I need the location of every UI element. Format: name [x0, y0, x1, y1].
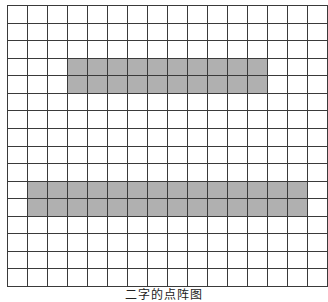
grid-cell [188, 24, 208, 42]
grid-cell [48, 234, 68, 252]
grid-cell-filled [108, 59, 128, 77]
grid-cell [128, 252, 148, 270]
grid-cell [8, 76, 28, 94]
grid-cell [208, 147, 228, 165]
grid-cell-filled [208, 182, 228, 200]
grid-cell [228, 234, 248, 252]
grid-cell [288, 234, 308, 252]
grid-cell [248, 6, 268, 24]
grid-cell [68, 41, 88, 59]
grid-cell [308, 24, 328, 42]
grid-cell [88, 234, 108, 252]
grid-cell [28, 41, 48, 59]
grid-cell [248, 94, 268, 112]
grid-cell-filled [28, 182, 48, 200]
grid-cell [188, 94, 208, 112]
grid-cell [108, 129, 128, 147]
grid-cell-filled [208, 59, 228, 77]
grid-cell [108, 217, 128, 235]
grid-cell [48, 76, 68, 94]
grid-cell [268, 147, 288, 165]
grid-cell-filled [148, 182, 168, 200]
grid-cell [88, 24, 108, 42]
grid-cell [128, 234, 148, 252]
grid-cell [308, 94, 328, 112]
grid-cell [8, 164, 28, 182]
grid-cell [108, 252, 128, 270]
grid-cell-filled [228, 76, 248, 94]
grid-cell [268, 6, 288, 24]
grid-cell [148, 147, 168, 165]
grid-cell [208, 6, 228, 24]
grid-cell [8, 6, 28, 24]
grid-cell [148, 6, 168, 24]
grid-cell [28, 217, 48, 235]
dot-matrix-grid [7, 5, 328, 287]
grid-cell [68, 269, 88, 287]
grid-cell [268, 59, 288, 77]
grid-cell [248, 129, 268, 147]
grid-cell [28, 252, 48, 270]
grid-cell [28, 234, 48, 252]
grid-cell [308, 129, 328, 147]
grid-cell [128, 164, 148, 182]
grid-cell-filled [268, 182, 288, 200]
grid-cell-filled [248, 76, 268, 94]
grid-cell [148, 234, 168, 252]
grid-cell [188, 111, 208, 129]
grid-cell [168, 217, 188, 235]
grid-cell [108, 6, 128, 24]
grid-cell [68, 94, 88, 112]
grid-cell [248, 111, 268, 129]
grid-cell-filled [148, 76, 168, 94]
grid-cell [248, 234, 268, 252]
grid-cell [48, 111, 68, 129]
grid-cell [88, 217, 108, 235]
grid-cell [128, 94, 148, 112]
grid-cell [108, 111, 128, 129]
grid-cell [88, 94, 108, 112]
grid-cell-filled [128, 76, 148, 94]
grid-cell [48, 59, 68, 77]
grid-cell [188, 269, 208, 287]
grid-cell [188, 234, 208, 252]
grid-cell [8, 41, 28, 59]
grid-cell [68, 111, 88, 129]
grid-cell [188, 252, 208, 270]
grid-cell [128, 269, 148, 287]
grid-cell [128, 41, 148, 59]
grid-cell [308, 111, 328, 129]
grid-cell [288, 252, 308, 270]
grid-cell [168, 94, 188, 112]
grid-cell-filled [188, 59, 208, 77]
grid-cell [168, 111, 188, 129]
grid-cell [68, 147, 88, 165]
grid-cell [208, 129, 228, 147]
grid-cell [48, 94, 68, 112]
grid-cell [28, 6, 48, 24]
grid-cell [268, 94, 288, 112]
grid-cell [28, 94, 48, 112]
grid-cell [208, 41, 228, 59]
grid-cell [288, 129, 308, 147]
grid-cell [288, 59, 308, 77]
grid-cell [8, 269, 28, 287]
grid-cell [188, 164, 208, 182]
grid-cell [208, 234, 228, 252]
grid-cell-filled [68, 76, 88, 94]
grid-cell [288, 6, 308, 24]
grid-cell [108, 24, 128, 42]
grid-cell [308, 217, 328, 235]
grid-cell [288, 164, 308, 182]
grid-cell-filled [188, 182, 208, 200]
grid-cell [128, 147, 148, 165]
grid-cell [48, 24, 68, 42]
grid-cell [248, 217, 268, 235]
grid-cell [308, 234, 328, 252]
grid-cell [268, 252, 288, 270]
grid-cell [228, 147, 248, 165]
grid-cell [68, 6, 88, 24]
grid-cell [208, 24, 228, 42]
grid-cell [308, 182, 328, 200]
grid-cell [268, 76, 288, 94]
